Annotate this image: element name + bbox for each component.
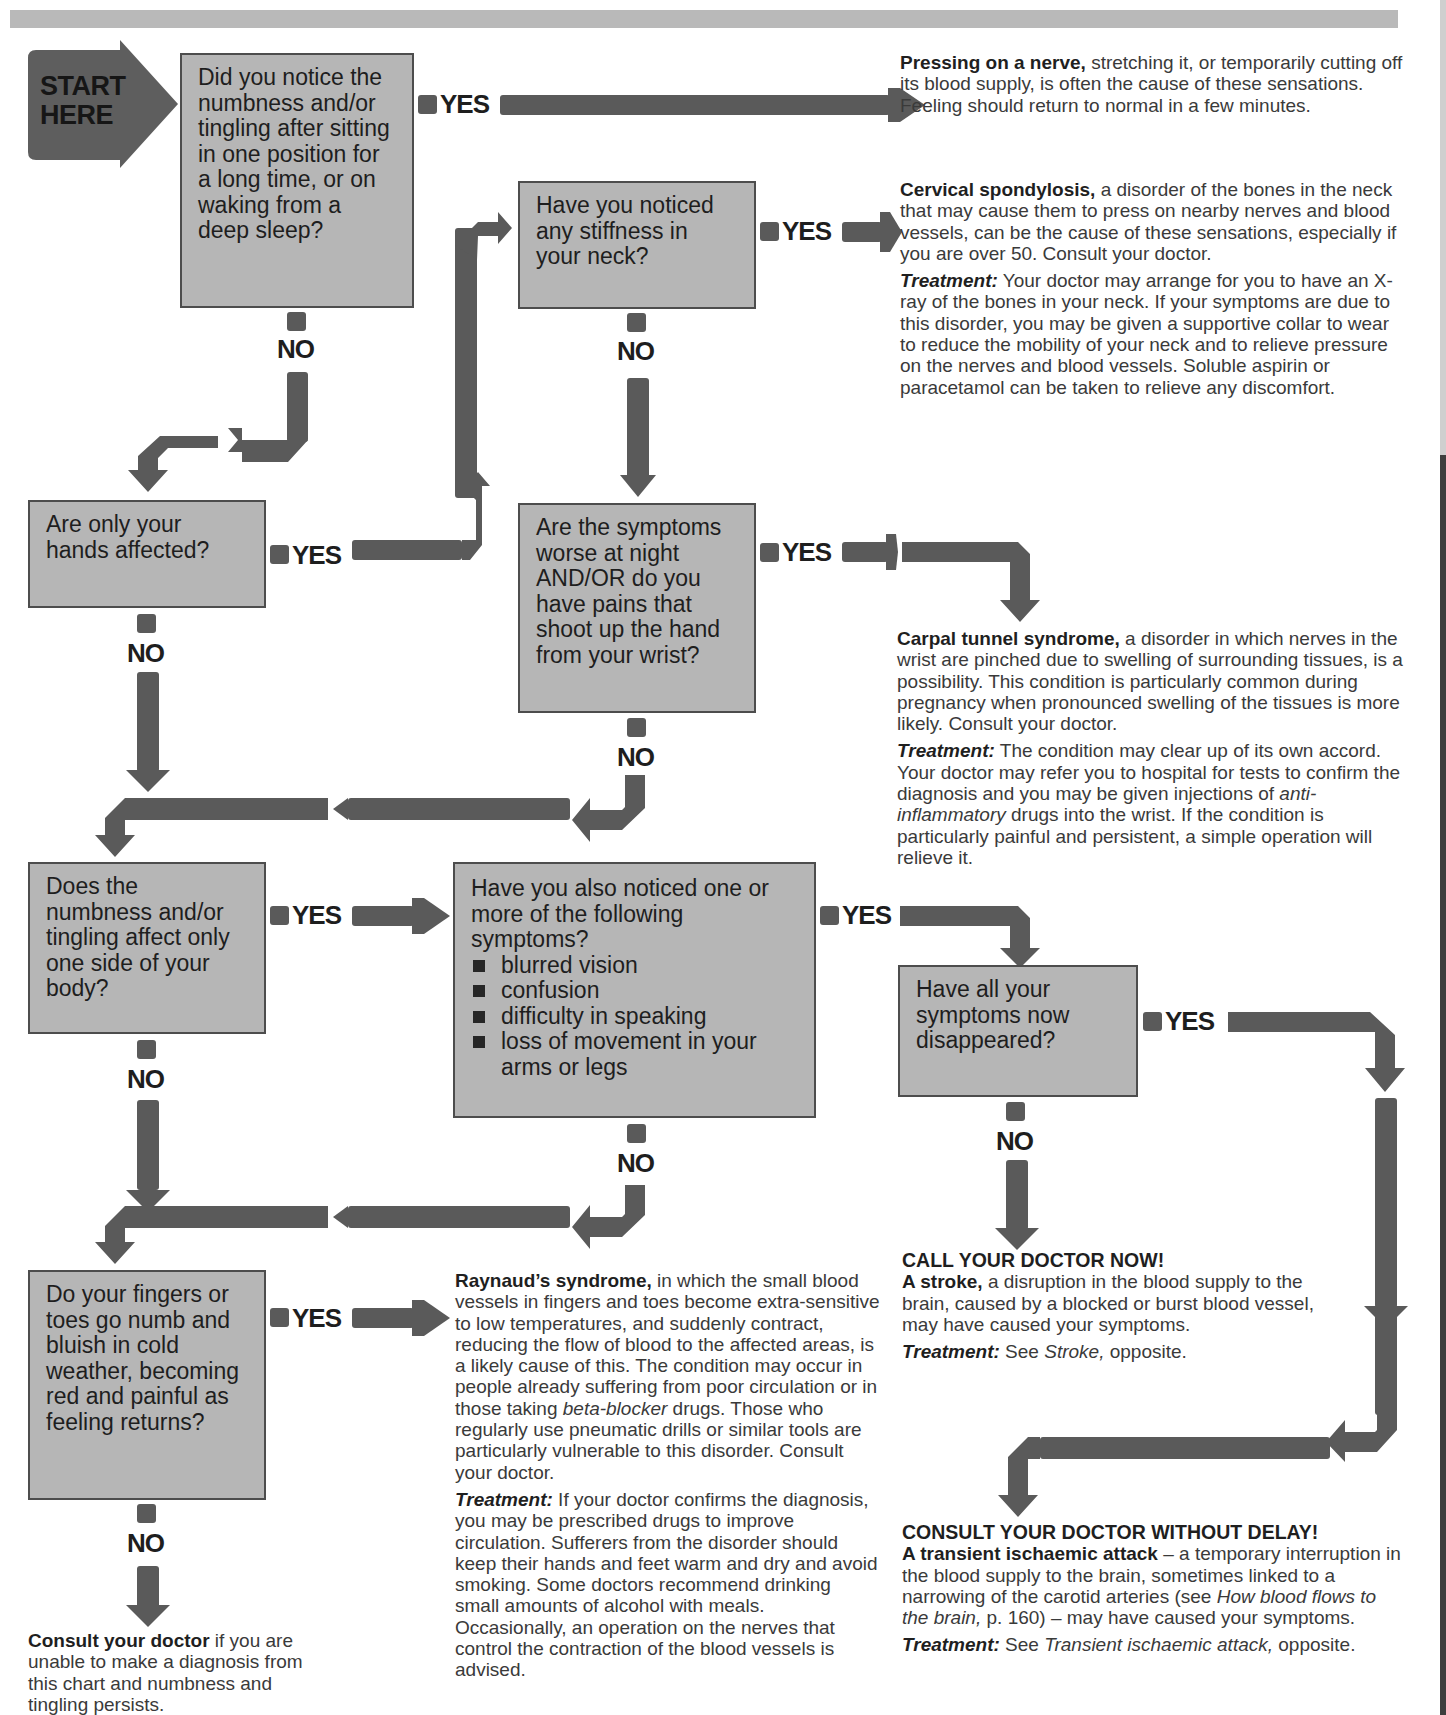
result-carpal-tunnel: Carpal tunnel syndrome, a disorder in wh… [897,628,1407,874]
no-marker [627,313,646,332]
yes-label: YES [1165,1008,1214,1034]
question-box-q3: Are only your hands affected? [28,500,266,608]
no-marker [287,312,306,331]
result-raynauds: Raynaud’s syndrome, in which the small b… [455,1270,880,1687]
yes-label: YES [292,1305,341,1331]
result-tia: CONSULT YOUR DOCTOR WITHOUT DELAY! A tra… [902,1522,1402,1662]
question-box-q1: Did you notice the numbness and/or tingl… [180,53,414,308]
yes-marker [270,906,289,925]
no-marker [1006,1102,1025,1121]
question-box-q2: Have you noticed any stiffness in your n… [518,181,756,309]
symptom-list: blurred vision confusion difficulty in s… [471,953,798,1081]
no-marker [137,614,156,633]
no-marker [137,1504,156,1523]
yes-marker [270,1308,289,1327]
no-label: NO [127,1066,164,1092]
yes-label: YES [842,902,891,928]
yes-marker [270,545,289,564]
yes-label: YES [782,218,831,244]
yes-marker [1143,1012,1162,1031]
yes-marker [418,95,437,114]
no-label: NO [996,1128,1033,1154]
urgent-heading: CALL YOUR DOCTOR NOW! [902,1250,1342,1271]
symptom-item: confusion [471,978,798,1004]
urgent-heading: CONSULT YOUR DOCTOR WITHOUT DELAY! [902,1522,1402,1543]
yes-label: YES [292,542,341,568]
question-box-q7: Have all your symptoms now disappeared? [898,965,1138,1097]
result-consult-doctor: Consult your doctor if you are unable to… [28,1630,328,1715]
no-label: NO [277,336,314,362]
result-stroke: CALL YOUR DOCTOR NOW! A stroke, a disrup… [902,1250,1342,1368]
no-label: NO [617,338,654,364]
no-marker [627,718,646,737]
symptom-item: blurred vision [471,953,798,979]
result-cervical-spondylosis: Cervical spondylosis, a disorder of the … [900,179,1400,404]
no-label: NO [127,640,164,666]
symptom-item: loss of movement in your arms or legs [471,1029,798,1080]
symptom-item: difficulty in speaking [471,1004,798,1030]
no-marker [137,1040,156,1059]
no-label: NO [617,744,654,770]
question-box-q5: Does the numbness and/or tingling affect… [28,862,266,1034]
yes-marker [760,222,779,241]
question-box-q8: Do your fingers or toes go numb and blui… [28,1270,266,1500]
no-marker [627,1124,646,1143]
no-label: NO [127,1530,164,1556]
result-pressing-nerve: Pressing on a nerve, stretching it, or t… [900,52,1410,122]
question-box-q4: Are the symptoms worse at night AND/OR d… [518,503,756,713]
start-here-label: START HERE [40,72,126,130]
yes-label: YES [292,902,341,928]
yes-label: YES [440,91,489,117]
yes-label: YES [782,539,831,565]
no-label: NO [617,1150,654,1176]
yes-marker [820,906,839,925]
question-box-q6: Have you also noticed one or more of the… [453,862,816,1118]
yes-marker [760,543,779,562]
